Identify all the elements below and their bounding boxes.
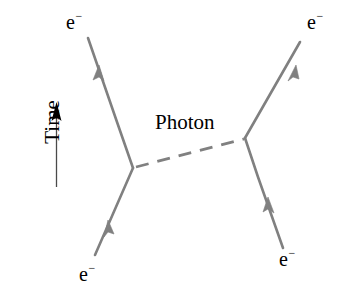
fermion-line-outgoing-left (88, 38, 133, 168)
fermion-line-incoming-right (245, 138, 283, 248)
photon-label: Photon (155, 112, 215, 133)
fermion-lines (88, 38, 300, 255)
fermion-line-outgoing-right (245, 42, 300, 138)
fermion-arrowheads (93, 65, 299, 237)
photon-exchange-line (136, 139, 244, 167)
particle-symbol: e (279, 248, 288, 270)
particle-label-incoming-right: e− (279, 248, 295, 269)
particle-charge: − (289, 246, 296, 260)
time-axis-label: Time (40, 82, 64, 162)
particle-label-incoming-left: e− (79, 263, 95, 284)
arrowhead-outgoing-left-icon (93, 65, 104, 81)
particle-symbol: e (79, 263, 88, 285)
arrowhead-outgoing-right-icon (288, 65, 299, 81)
photon-dashed-path (136, 139, 244, 167)
particle-label-outgoing-left: e− (66, 11, 82, 32)
particle-label-outgoing-right: e− (307, 11, 323, 32)
particle-charge: − (76, 9, 83, 23)
particle-charge: − (89, 261, 96, 275)
particle-charge: − (317, 9, 324, 23)
fermion-line-incoming-left (95, 168, 133, 255)
particle-symbol: e (66, 11, 75, 33)
feynman-diagram: e− e− e− e− Photon Time (0, 0, 347, 293)
particle-symbol: e (307, 11, 316, 33)
